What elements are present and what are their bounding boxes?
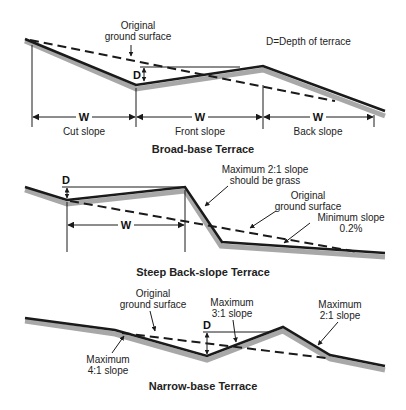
max21-label-2: 2:1 slope [320, 310, 361, 321]
width-label: W [121, 219, 132, 231]
original-ground-label-1: Original [291, 190, 325, 201]
depth-label: D [133, 69, 141, 81]
pointer-arrow [205, 186, 228, 206]
max-slope-label-1: Maximum 2:1 slope [222, 164, 309, 175]
pointer-arrow [250, 211, 276, 228]
diagram-title: Broad-base Terrace [152, 143, 255, 155]
depth-legend: D=Depth of terrace [266, 36, 351, 47]
diagram-title: Steep Back-slope Terrace [136, 266, 270, 278]
front-slope-label: Front slope [175, 126, 225, 137]
cut-slope-label: Cut slope [63, 126, 106, 137]
pointer-arrow [284, 223, 310, 243]
pointer-arrow [318, 322, 338, 345]
width-label: W [195, 111, 206, 123]
max41-label-1: Maximum [86, 354, 129, 365]
depth-label: D [62, 174, 70, 186]
width-label: W [313, 111, 324, 123]
original-ground-label-2: ground surface [120, 299, 187, 310]
max21-label-1: Maximum [318, 299, 361, 310]
original-ground-label-2: ground surface [105, 31, 172, 42]
pointer-arrow [233, 320, 236, 342]
min-slope-label-2: 0.2% [340, 223, 363, 234]
depth-label: D [203, 319, 211, 331]
ground-shadow [25, 41, 385, 116]
narrow-base-terrace: D Original ground surface Maximum 3:1 sl… [25, 288, 385, 392]
min-slope-label-1: Minimum slope [317, 212, 385, 223]
original-ground-label-1: Original [121, 20, 155, 31]
diagram-canvas: D Original ground surface D=Depth of ter… [0, 0, 406, 410]
broad-base-terrace: D Original ground surface D=Depth of ter… [25, 20, 385, 155]
pointer-arrow [150, 311, 155, 331]
max41-label-2: 4:1 slope [88, 365, 129, 376]
diagram-title: Narrow-base Terrace [149, 380, 258, 392]
steep-back-slope-terrace: D W Maximum 2:1 slope should be grass Or… [25, 164, 385, 278]
max31-label-1: Maximum [210, 297, 253, 308]
terrace-diagrams: D Original ground surface D=Depth of ter… [0, 0, 406, 410]
original-ground-label-1: Original [136, 288, 170, 299]
original-ground-label-2: ground surface [275, 201, 342, 212]
max31-label-2: 3:1 slope [212, 308, 253, 319]
max-slope-label-2: should be grass [230, 175, 301, 186]
back-slope-label: Back slope [294, 126, 343, 137]
pointer-arrow [112, 336, 124, 353]
original-ground-dashed [30, 40, 335, 101]
width-label: W [79, 111, 90, 123]
